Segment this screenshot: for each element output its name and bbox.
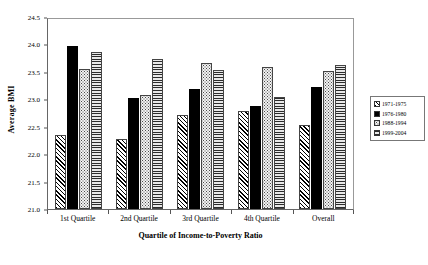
legend-swatch-icon: [374, 130, 380, 136]
bar: [299, 125, 310, 209]
y-axis-tick-label: 21.5: [28, 179, 40, 187]
y-axis-tick-label: 24.5: [28, 14, 40, 22]
y-axis-tick-label: 24.0: [28, 41, 40, 49]
bar: [250, 106, 261, 209]
legend-item-label: 1976-1980: [382, 111, 406, 117]
y-axis-tick-label: 22.5: [28, 124, 40, 132]
legend-item: 1988-1994: [374, 119, 422, 127]
chart-legend: 1971-19751976-19801988-19941999-2004: [370, 96, 425, 141]
bar: [335, 65, 346, 209]
bar-group: [231, 19, 292, 209]
bar-group: [170, 19, 231, 209]
legend-item: 1976-1980: [374, 110, 422, 118]
legend-swatch-icon: [374, 101, 380, 107]
bar-chart-figure: Average BMI 21.021.522.022.523.023.524.0…: [0, 0, 428, 265]
x-axis-tick-label: Overall: [293, 214, 354, 223]
bar: [152, 59, 163, 209]
bar: [67, 46, 78, 209]
x-axis-tick-label: 2nd Quartile: [108, 214, 169, 223]
y-axis-tick-label: 21.0: [28, 206, 40, 214]
bar: [323, 71, 334, 209]
bar: [91, 52, 102, 209]
bar: [262, 67, 273, 209]
bar: [116, 139, 127, 209]
bar-groups: [48, 19, 353, 209]
x-axis-title: Quartile of Income-to-Poverty Ratio: [47, 231, 354, 240]
bar: [55, 135, 66, 209]
y-axis-tick-label: 23.0: [28, 96, 40, 104]
bar: [189, 89, 200, 209]
bar: [274, 97, 285, 209]
bar: [201, 63, 212, 209]
bar: [238, 111, 249, 209]
bar-group: [109, 19, 170, 209]
bar: [128, 98, 139, 209]
plot-area: [47, 18, 354, 210]
legend-item-label: 1999-2004: [382, 130, 406, 136]
bar: [213, 70, 224, 209]
legend-swatch-icon: [374, 120, 380, 126]
y-axis-tick-label: 23.5: [28, 69, 40, 77]
legend-swatch-icon: [374, 111, 380, 117]
legend-item-label: 1988-1994: [382, 120, 406, 126]
x-axis-tick-labels: 1st Quartile2nd Quartile3rd Quartile4th …: [47, 214, 354, 223]
bar: [177, 115, 188, 209]
x-axis-tick-label: 4th Quartile: [231, 214, 292, 223]
bar: [79, 69, 90, 209]
x-axis-tick-label: 3rd Quartile: [170, 214, 231, 223]
bar: [311, 87, 322, 209]
legend-item-label: 1971-1975: [382, 101, 406, 107]
y-axis-title-text: Average BMI: [7, 85, 16, 133]
y-axis-tick-label: 22.0: [28, 151, 40, 159]
bar-group: [292, 19, 353, 209]
bar: [140, 95, 151, 209]
legend-item: 1999-2004: [374, 129, 422, 137]
x-axis-tick-label: 1st Quartile: [47, 214, 108, 223]
bar-group: [48, 19, 109, 209]
y-axis-tick-labels: 21.021.522.022.523.023.524.024.5: [18, 18, 44, 210]
legend-item: 1971-1975: [374, 100, 422, 108]
